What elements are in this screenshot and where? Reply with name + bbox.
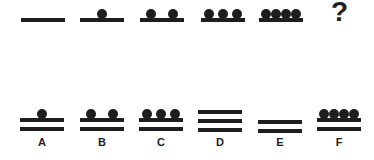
bar <box>80 127 124 131</box>
option-label: F <box>317 136 361 148</box>
dot <box>329 109 339 119</box>
bar <box>20 127 64 131</box>
bar <box>198 128 242 132</box>
bar <box>317 127 361 131</box>
dot <box>86 109 96 119</box>
dot <box>108 109 118 119</box>
dot <box>37 109 47 119</box>
dot <box>261 9 271 19</box>
dot <box>349 109 359 119</box>
bar <box>139 127 183 131</box>
option-label: E <box>258 136 302 148</box>
bar <box>140 18 184 22</box>
dot <box>291 9 301 19</box>
dot <box>218 9 228 19</box>
dot <box>156 109 166 119</box>
dot <box>142 109 152 119</box>
bar <box>258 120 302 124</box>
dot <box>319 109 329 119</box>
dot <box>232 9 242 19</box>
bar <box>80 118 124 122</box>
dot <box>204 9 214 19</box>
dot <box>271 9 281 19</box>
dot <box>97 9 107 19</box>
option-label: C <box>139 136 183 148</box>
bar <box>198 119 242 123</box>
dot <box>281 9 291 19</box>
option-label: D <box>198 136 242 148</box>
dot <box>339 109 349 119</box>
bar <box>258 129 302 133</box>
option-label: A <box>20 136 64 148</box>
question-mark: ? <box>331 0 348 26</box>
dot <box>146 9 156 19</box>
bar <box>198 110 242 114</box>
option-label: B <box>80 136 124 148</box>
bar <box>21 18 65 22</box>
dot <box>170 109 180 119</box>
dot <box>168 9 178 19</box>
